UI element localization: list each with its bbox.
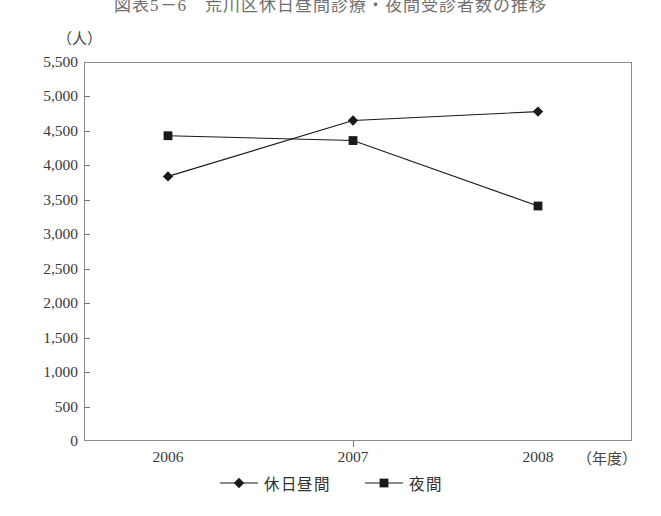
- y-axis-tick-label: 3,500: [8, 191, 78, 209]
- y-axis-tick-mark: [84, 165, 90, 166]
- y-axis-tick-label: 5,000: [8, 87, 78, 105]
- y-axis-tick-label: 4,000: [8, 156, 78, 174]
- y-axis-tick-label: 2,500: [8, 260, 78, 278]
- y-axis-tick-label: 0: [8, 432, 78, 450]
- y-axis-tick-mark: [84, 338, 90, 339]
- y-axis-tick-mark: [84, 131, 90, 132]
- square-marker-icon: [380, 479, 389, 488]
- y-axis-tick-mark: [84, 96, 90, 97]
- y-axis-tick-labels: 5,5005,0004,5004,0003,5003,0002,5002,000…: [8, 0, 78, 516]
- y-axis-tick-label: 500: [8, 398, 78, 416]
- legend-label: 休日昼間: [264, 472, 330, 494]
- y-axis-tick-mark: [84, 269, 90, 270]
- y-axis-tick-label: 5,500: [8, 53, 78, 71]
- legend-swatch: [219, 475, 259, 491]
- y-axis-tick-mark: [84, 407, 90, 408]
- y-axis-tick-label: 2,000: [8, 294, 78, 312]
- chart-title: 図表5－6 荒川区休日昼間診療・夜間受診者数の推移: [0, 0, 661, 13]
- y-axis-tick-mark: [84, 372, 90, 373]
- legend-item[interactable]: 休日昼間: [219, 472, 330, 494]
- x-axis-tick-label: 2006: [123, 448, 213, 466]
- y-axis-tick-label: 3,000: [8, 225, 78, 243]
- y-axis-tick-label: 1,500: [8, 329, 78, 347]
- y-axis-tick-label: 1,000: [8, 363, 78, 381]
- diamond-marker-icon: [234, 478, 244, 488]
- y-axis-tick-mark: [84, 234, 90, 235]
- y-axis-tick-label: 4,500: [8, 122, 78, 140]
- plot-area: [84, 62, 632, 441]
- x-axis-tick-mark: [353, 441, 354, 447]
- y-axis-tick-mark: [84, 303, 90, 304]
- chart-legend: 休日昼間夜間: [0, 472, 661, 494]
- x-axis-unit-label: （年度）: [577, 447, 637, 468]
- legend-item[interactable]: 夜間: [364, 472, 442, 494]
- y-axis-tick-mark: [84, 200, 90, 201]
- x-axis-tick-label: 2007: [308, 448, 398, 466]
- x-axis-tick-label: 2008: [493, 448, 583, 466]
- legend-label: 夜間: [409, 472, 442, 494]
- legend-swatch: [364, 475, 404, 491]
